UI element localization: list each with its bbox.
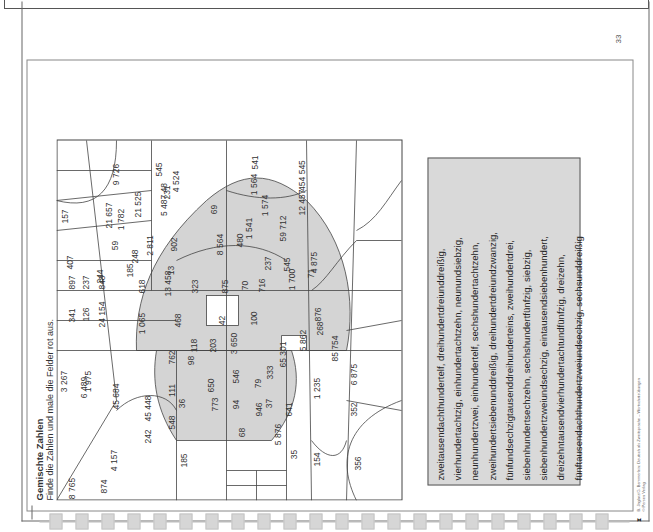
svg-text:323: 323	[190, 279, 200, 293]
svg-text:546: 546	[231, 369, 241, 383]
svg-text:100: 100	[249, 311, 259, 325]
footer-copyright: © Persen Verlag	[641, 378, 646, 512]
svg-text:13: 13	[166, 266, 176, 276]
svg-text:35: 35	[289, 450, 299, 460]
binding-hole	[336, 514, 349, 530]
svg-text:468: 468	[173, 313, 183, 327]
svg-text:3 650: 3 650	[229, 333, 239, 355]
svg-text:244: 244	[95, 269, 105, 283]
publisher-footer: B. Jaglarz/G. Bemmerlein: Deutsch als Zw…	[636, 378, 646, 512]
svg-text:1 574: 1 574	[260, 195, 270, 217]
publisher-logo-icon: ⧗	[636, 518, 643, 522]
svg-text:237: 237	[81, 275, 91, 289]
number-words-line: dreizehntausendvierhundertachtundfünfzig…	[552, 163, 569, 481]
svg-text:6 875: 6 875	[349, 364, 359, 386]
svg-text:37: 37	[264, 399, 274, 409]
svg-text:21 525: 21 525	[133, 191, 143, 217]
number-words-line: fünfundsechzigtausenddreihunderteins, zw…	[500, 163, 517, 481]
svg-text:4 875: 4 875	[309, 252, 319, 274]
binding-hole	[154, 514, 167, 530]
svg-text:24 154: 24 154	[97, 301, 107, 327]
svg-text:268: 268	[315, 321, 325, 335]
binding-hole	[128, 514, 141, 530]
svg-text:185: 185	[179, 453, 189, 467]
svg-text:185: 185	[125, 263, 135, 277]
svg-text:42: 42	[217, 316, 227, 326]
svg-text:5 862: 5 862	[298, 330, 308, 352]
svg-text:94: 94	[231, 400, 241, 410]
svg-text:874: 874	[99, 479, 109, 493]
svg-text:1 782: 1 782	[116, 209, 126, 231]
svg-text:341: 341	[67, 308, 77, 322]
binding-hole	[180, 514, 193, 530]
svg-text:242: 242	[143, 429, 153, 443]
binding-hole	[232, 514, 245, 530]
svg-text:1 700: 1 700	[287, 269, 297, 291]
svg-text:1 065: 1 065	[137, 313, 147, 335]
svg-text:4 524: 4 524	[171, 171, 181, 193]
svg-text:5 876: 5 876	[273, 424, 283, 446]
svg-text:12 457: 12 457	[297, 189, 307, 215]
svg-text:203: 203	[208, 338, 218, 352]
number-words-line: neunhundertzwei, einhundertelf, sechshun…	[466, 163, 483, 481]
svg-text:541: 541	[250, 155, 260, 169]
binding-hole	[414, 514, 427, 530]
svg-text:36: 36	[177, 399, 187, 409]
svg-text:618: 618	[137, 279, 147, 293]
page-number: 33	[614, 35, 623, 44]
binding-hole	[310, 514, 323, 530]
svg-text:69: 69	[209, 205, 219, 215]
svg-text:70: 70	[240, 281, 250, 291]
svg-text:154: 154	[312, 452, 322, 466]
svg-text:2 811: 2 811	[145, 235, 155, 256]
worksheet-title: Gemischte Zahlen	[34, 319, 45, 501]
svg-text:8 564: 8 564	[215, 234, 225, 256]
binding-hole	[284, 514, 297, 530]
binding-hole	[440, 514, 453, 530]
svg-text:1 564: 1 564	[249, 174, 259, 196]
svg-text:21 657: 21 657	[104, 202, 114, 228]
svg-text:126: 126	[81, 307, 91, 321]
svg-text:59: 59	[110, 241, 120, 251]
svg-text:773: 773	[210, 397, 220, 411]
binding-hole	[492, 514, 505, 530]
svg-text:79: 79	[253, 379, 263, 389]
svg-text:352: 352	[349, 402, 359, 416]
svg-text:45 448: 45 448	[143, 395, 153, 421]
binding-hole	[362, 514, 375, 530]
svg-text:333: 333	[265, 365, 275, 379]
binding-hole	[76, 514, 89, 530]
svg-text:545: 545	[154, 162, 164, 176]
svg-text:876: 876	[313, 307, 323, 321]
svg-text:237: 237	[263, 256, 273, 270]
svg-text:68: 68	[237, 428, 247, 438]
svg-text:85 754: 85 754	[330, 335, 340, 361]
svg-text:118: 118	[189, 338, 199, 352]
svg-text:248: 248	[130, 249, 140, 263]
svg-text:716: 716	[257, 278, 267, 292]
svg-text:8 765: 8 765	[67, 478, 77, 500]
number-words-box: zweitausendachthundertelf, dreihundertdr…	[428, 158, 581, 486]
binding-hole	[518, 514, 531, 530]
svg-text:3 267: 3 267	[59, 371, 69, 393]
binding-hole	[258, 514, 271, 530]
number-words-line: siebenhundertzweiundsechzig, eintausends…	[535, 163, 552, 481]
svg-text:902: 902	[169, 237, 179, 251]
svg-text:650: 650	[206, 378, 216, 392]
svg-text:4 157: 4 157	[109, 450, 119, 472]
worksheet-page: Gemischte Zahlen Finde die Zahlen und ma…	[22, 1, 650, 522]
svg-text:548: 548	[167, 415, 177, 429]
svg-text:1 541: 1 541	[244, 218, 254, 240]
number-words-line: zweihundertsiebenunddreißig, dreihundert…	[483, 163, 500, 481]
binding-hole	[570, 514, 583, 530]
number-words-line: vierhundertachtzig, einhundertachtzehn, …	[449, 163, 466, 481]
svg-text:65 301: 65 301	[278, 341, 288, 367]
svg-text:45 684: 45 684	[111, 383, 121, 409]
worksheet-instruction: Finde die Zahlen und male die Felder rot…	[45, 319, 56, 501]
number-words-line: fünftausendachthundertzweiundsechzig, se…	[569, 163, 586, 481]
number-words-line: siebenhundertsechzehn, sechshundertfünfz…	[518, 163, 535, 481]
title-accent-bar	[32, 506, 33, 520]
svg-text:111: 111	[167, 384, 177, 397]
number-words-line: zweitausendachthundertelf, dreihundertdr…	[432, 163, 449, 481]
svg-text:157: 157	[60, 209, 70, 223]
